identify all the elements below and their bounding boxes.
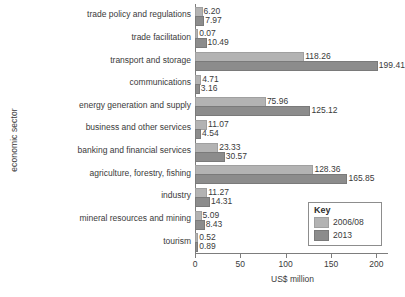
bar-value-label: 30.57 (223, 152, 247, 160)
bar-2013 (195, 61, 378, 71)
bar-value-label: 5.09 (200, 211, 220, 219)
category-label: banking and financial services (3, 146, 191, 155)
category-label: communications (3, 78, 191, 87)
bar-2013 (195, 106, 310, 116)
bar-value-label: 128.36 (311, 165, 340, 173)
bar-value-label: 11.27 (205, 188, 229, 196)
x-tick (376, 253, 377, 258)
chart-row: communications4.713.16 (195, 72, 390, 95)
bar-value-label: 165.85 (345, 174, 374, 182)
chart-row: agriculture, forestry, fishing128.36165.… (195, 162, 390, 185)
category-label: business and other services (3, 123, 191, 132)
category-label: transport and storage (3, 56, 191, 65)
legend: Key 2006/08 2013 (308, 202, 382, 246)
bar-value-label: 6.20 (201, 7, 221, 15)
bar-value-label: 4.71 (199, 75, 219, 83)
chart-row: trade policy and regulations6.207.97 (195, 4, 390, 27)
category-label: trade facilitation (3, 33, 191, 42)
bar-value-label: 11.07 (205, 120, 229, 128)
bar-value-label: 0.07 (196, 29, 216, 37)
category-label: industry (3, 191, 191, 200)
bar-value-label: 118.26 (302, 52, 330, 60)
x-axis-line (195, 253, 388, 254)
x-tick-label: 50 (236, 259, 245, 269)
chart-row: trade facilitation0.0710.49 (195, 27, 390, 50)
legend-item-2013: 2013 (314, 230, 377, 241)
category-label: tourism (3, 237, 191, 246)
chart-row: business and other services11.074.54 (195, 117, 390, 140)
bar-value-label: 199.41 (376, 61, 405, 69)
category-label: energy generation and supply (3, 101, 191, 110)
legend-swatch-2013 (314, 230, 329, 241)
x-tick-label: 100 (279, 259, 293, 269)
category-label: trade policy and regulations (3, 10, 191, 19)
bar-value-label: 75.96 (264, 97, 288, 105)
x-tick-label: 0 (193, 259, 198, 269)
x-tick (195, 253, 196, 258)
bar-value-label: 7.97 (202, 16, 222, 24)
bar-value-label: 4.54 (199, 129, 219, 137)
bar-2013 (195, 174, 347, 184)
category-label: agriculture, forestry, fishing (3, 169, 191, 178)
legend-item-2006-08: 2006/08 (314, 217, 377, 228)
legend-title: Key (314, 206, 377, 215)
x-tick (286, 253, 287, 258)
x-tick-label: 200 (369, 259, 383, 269)
bar-value-label: 0.52 (196, 233, 216, 241)
chart-row: transport and storage118.26199.41 (195, 49, 390, 72)
bar-2013 (195, 152, 225, 162)
category-label: mineral resources and mining (3, 214, 191, 223)
bar-value-label: 8.43 (203, 220, 223, 228)
chart-row: energy generation and supply75.96125.12 (195, 95, 390, 118)
x-tick (240, 253, 241, 258)
bar-value-label: 10.49 (205, 38, 229, 46)
bar-value-label: 23.33 (216, 143, 240, 151)
legend-swatch-2006-08 (314, 217, 329, 228)
x-tick-label: 150 (324, 259, 338, 269)
x-axis-title: US$ million (195, 274, 390, 284)
chart-row: banking and financial services23.3330.57 (195, 140, 390, 163)
legend-label-2006-08: 2006/08 (333, 218, 364, 227)
bar-value-label: 0.89 (196, 242, 216, 250)
bar-value-label: 3.16 (198, 84, 218, 92)
bar-value-label: 125.12 (308, 106, 337, 114)
x-tick (331, 253, 332, 258)
legend-label-2013: 2013 (333, 231, 352, 240)
bar-value-label: 14.31 (208, 197, 232, 205)
